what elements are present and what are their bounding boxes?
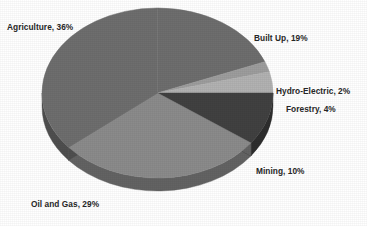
pie-label-forestry: Forestry, 4% <box>286 104 336 114</box>
pie-chart: Agriculture, 36% Built Up, 19% Hydro-Ele… <box>0 0 367 226</box>
pie-slice-group <box>42 8 273 191</box>
pie-label-hydro-electric: Hydro-Electric, 2% <box>276 86 350 96</box>
pie-label-oil-and-gas: Oil and Gas, 29% <box>31 199 99 209</box>
pie-label-built-up: Built Up, 19% <box>254 33 308 43</box>
pie-label-agriculture: Agriculture, 36% <box>7 22 73 32</box>
pie-label-mining: Mining, 10% <box>256 166 305 176</box>
